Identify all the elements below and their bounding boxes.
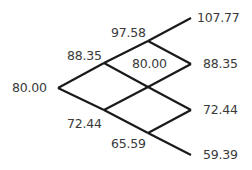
edge-downdown-udd — [148, 110, 191, 133]
edge-mid-udd — [148, 87, 191, 110]
node-upup2-label: 97.58 — [111, 27, 146, 40]
node-udd3-label: 72.44 — [203, 104, 238, 117]
edge-down1-mid — [104, 87, 148, 110]
node-root-label: 80.00 — [12, 82, 47, 95]
node-downdown2-label: 65.59 — [111, 138, 146, 151]
edge-root-down — [58, 88, 104, 110]
edge-root-up — [58, 63, 104, 88]
node-down1-label: 72.44 — [67, 118, 102, 131]
edge-downdown-ddd — [148, 133, 191, 155]
edge-upup-uuu — [148, 18, 191, 41]
node-ddd3-label: 59.39 — [203, 149, 238, 162]
edge-down1-downdown — [104, 110, 148, 133]
node-uuu3-label: 107.77 — [197, 12, 240, 25]
node-up1-label: 88.35 — [67, 50, 102, 63]
node-uud3-label: 88.35 — [203, 58, 238, 71]
node-mid2-label: 80.00 — [132, 58, 167, 71]
